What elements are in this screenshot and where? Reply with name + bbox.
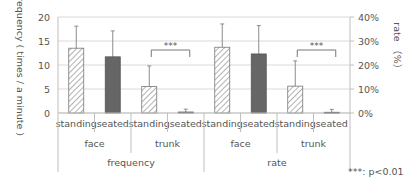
significance-brackets: ******	[151, 41, 336, 57]
x-label-posture: seated	[316, 118, 348, 129]
bar-standing	[288, 86, 303, 113]
y-tick-label: 15	[38, 36, 50, 47]
bar-standing	[215, 47, 230, 113]
bar-standing	[69, 48, 84, 113]
y-tick-label: 0	[44, 108, 50, 119]
x-label-region: face	[230, 138, 250, 149]
significance-bracket	[151, 50, 190, 57]
x-label-region: trunk	[155, 138, 181, 149]
y-axis-right-label: rate （%）	[392, 22, 403, 73]
y-tick-label: 10	[38, 60, 50, 71]
x-label-measure: rate	[267, 157, 286, 168]
y-tick-label: 0%	[358, 108, 373, 119]
x-label-posture: standing	[129, 118, 170, 129]
bar-chart: 05101520 0%10%20%30%40% standingseatedst…	[0, 0, 417, 192]
y-tick-label: 20	[38, 12, 50, 23]
x-label-region: trunk	[301, 138, 327, 149]
x-axis-labels: standingseatedstandingseatedstandingseat…	[56, 113, 350, 172]
y-axis-right-ticks: 0%10%20%30%40%	[350, 12, 379, 119]
bar-standing	[142, 87, 157, 113]
x-label-posture: seated	[97, 118, 129, 129]
footnote: ***: p<0.01	[348, 166, 404, 177]
y-axis-left-ticks: 05101520	[38, 12, 50, 119]
x-label-measure: frequency	[107, 157, 155, 168]
significance-stars: ***	[164, 41, 178, 51]
y-tick-label: 5	[44, 84, 50, 95]
significance-bracket	[297, 50, 336, 57]
y-tick-label: 30%	[358, 36, 379, 47]
bar-seated	[105, 57, 120, 113]
significance-stars: ***	[310, 41, 324, 51]
y-tick-label: 20%	[358, 60, 379, 71]
x-label-posture: seated	[243, 118, 275, 129]
y-tick-label: 10%	[358, 84, 379, 95]
x-label-posture: standing	[56, 118, 97, 129]
x-label-posture: standing	[202, 118, 243, 129]
bar-seated	[251, 54, 266, 113]
gridlines	[58, 17, 350, 113]
bars	[69, 24, 340, 113]
x-label-region: face	[84, 138, 104, 149]
x-label-posture: standing	[275, 118, 316, 129]
y-tick-label: 40%	[358, 12, 379, 23]
y-axis-left-label: frequency ( times / a minute )	[15, 0, 26, 136]
x-label-posture: seated	[170, 118, 202, 129]
